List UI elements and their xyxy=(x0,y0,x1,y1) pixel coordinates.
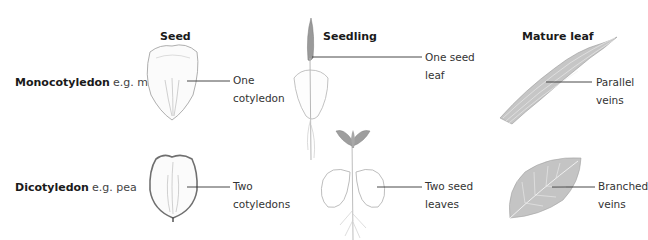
label-one-seed-leaf: One seed leaf xyxy=(425,48,475,84)
pea-seed-illustration xyxy=(150,155,197,222)
label-branched-veins: Branched veins xyxy=(598,177,648,213)
label-two-seed-leaves: Two seed leaves xyxy=(425,177,473,213)
label-two-cotyledons: Two cotyledons xyxy=(233,177,290,213)
maize-seedling-illustration xyxy=(294,18,328,160)
pea-seedling-illustration xyxy=(321,130,384,240)
label-one-cotyledon: One cotyledon xyxy=(233,71,285,107)
maize-seed-illustration xyxy=(147,45,198,120)
label-parallel-veins: Parallel veins xyxy=(596,73,634,109)
branched-vein-leaf-illustration xyxy=(509,158,581,218)
